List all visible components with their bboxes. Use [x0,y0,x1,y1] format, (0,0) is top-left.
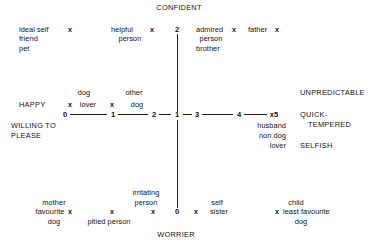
data-point-marker-pitied-person: x [110,207,114,216]
axis-pole-quick-tempered-line2: TEMPERED [308,120,351,129]
htick-2: 2 [152,110,156,119]
axis-pole-quick-tempered-line1: QUICK- [300,110,327,119]
data-point-marker-dog-lover: x [68,100,72,109]
point-label-favourite-dog: dog [48,217,60,226]
point-label-least-favourite-dog: dog [295,217,307,226]
vtick-2: 2 [175,25,179,34]
vertical-axis-lower [177,120,178,208]
axis-pole-happy: HAPPY [19,100,45,109]
htick-x5: x5 [270,110,278,119]
data-point-marker-irritating-person: x [151,207,155,216]
point-label-other-dog: dog [131,100,143,109]
point-label-favourite: favourite [36,207,65,216]
point-label-irritating-person: person [135,198,158,207]
data-point-marker-father: x [275,25,279,34]
point-label-irritating: irritating [133,188,160,197]
point-label-sister: sister [210,207,228,216]
point-label-least-favourite: least favourite [283,207,330,216]
h-axis-seg-3-4 [202,114,233,115]
point-label-admired: admired [196,25,223,34]
data-point-marker-helpful-person: x [150,25,154,34]
h-axis-seg-0-1 [70,114,107,115]
point-label-friend: friend [19,34,38,43]
point-label-helpful-person: person [119,34,142,43]
point-label-brother: brother [196,44,220,53]
point-label-other: other [125,88,142,97]
point-label-non-dog: non dog [259,131,286,140]
point-label-non-dog-lover: lover [270,141,286,150]
axis-pole-willing-to-please-line2: PLEASE [11,131,41,140]
axis-pole-unpredictable: UNPREDICTABLE [300,88,365,97]
data-point-marker-self-sister: x [194,207,198,216]
point-label-husband: husband [257,121,286,130]
h-axis-seg-2-mid [159,114,171,115]
h-axis-seg-mid-3 [183,114,192,115]
data-point-marker-mother-favourite-dog: x [68,207,72,216]
axis-pole-selfish: SELFISH [300,141,333,150]
vtick-0: 0 [175,207,179,216]
point-label-child: child [288,198,303,207]
point-label-self: self [211,198,223,207]
data-point-marker-admired-person: x [232,25,236,34]
axis-pole-confident: CONFIDENT [156,3,201,12]
data-point-marker-other-dog: x [110,100,114,109]
point-label-father: father [248,25,267,34]
repertory-grid-diagram: CONFIDENT 2 1 0 0 1 2 3 4 x5 HAPPY WILLI… [0,0,384,246]
point-label-dog: dog [78,88,90,97]
htick-0: 0 [63,110,67,119]
htick-3: 3 [195,110,199,119]
vertical-axis-upper [177,34,178,112]
point-label-pet: pet [19,44,29,53]
point-label-ideal-self: ideal self [19,25,49,34]
h-axis-seg-4-5 [244,114,267,115]
htick-1: 1 [111,110,115,119]
axis-pole-willing-to-please-line1: WILLING TO [11,121,56,130]
vtick-1: 1 [175,110,179,119]
point-label-mother: mother [42,198,65,207]
point-label-pitied-person: pitied person [88,217,131,226]
h-axis-seg-1-2 [118,114,148,115]
point-label-helpful: helpful [111,25,133,34]
data-point-marker-child-least-favourite-dog: x [275,207,279,216]
point-label-dog-lover: lover [80,100,96,109]
axis-pole-worrier: WORRIER [157,230,194,239]
data-point-marker-ideal-self: x [68,25,72,34]
point-label-admired-person: person [200,34,223,43]
htick-4: 4 [237,110,241,119]
